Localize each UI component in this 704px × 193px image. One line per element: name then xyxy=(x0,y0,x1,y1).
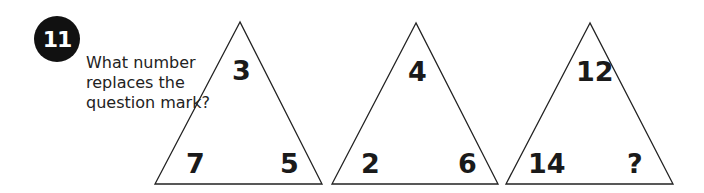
triangle-1-bottom-left: 7 xyxy=(186,150,205,177)
triangle-1-top: 3 xyxy=(232,57,251,84)
triangle-3-top: 12 xyxy=(576,58,614,85)
triangles-figure xyxy=(0,0,704,193)
triangle-3-bottom-right: ? xyxy=(627,150,643,177)
triangle-2-top: 4 xyxy=(408,58,427,85)
triangle-3-bottom-left: 14 xyxy=(528,150,566,177)
triangle-1-bottom-right: 5 xyxy=(280,150,299,177)
triangle-2-bottom-right: 6 xyxy=(458,150,477,177)
triangle-2-bottom-left: 2 xyxy=(361,150,380,177)
